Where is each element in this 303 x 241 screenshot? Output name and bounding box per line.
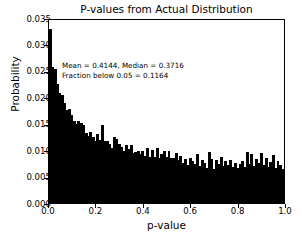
annotation-line-fraction: Fraction below 0.05 = 0.1164: [62, 71, 184, 81]
statistics-annotation: Mean = 0.4144, Median = 0.3716 Fraction …: [62, 61, 184, 81]
x-tick-mark: [238, 204, 239, 208]
figure-canvas: P-values from Actual Distribution Probab…: [0, 0, 303, 241]
x-tick-mark: [285, 204, 286, 208]
x-tick-mark: [95, 204, 96, 208]
annotation-line-mean-median: Mean = 0.4144, Median = 0.3716: [62, 61, 184, 71]
chart-title: P-values from Actual Distribution: [48, 3, 285, 15]
x-axis-label: p-value: [48, 219, 285, 231]
x-tick-mark: [143, 204, 144, 208]
plot-area: [48, 19, 285, 204]
histogram-bars: [49, 20, 284, 203]
histogram-bar: [284, 164, 285, 203]
x-tick-mark: [190, 204, 191, 208]
x-tick-mark: [48, 204, 49, 208]
y-axis-label: Probability: [9, 39, 21, 129]
